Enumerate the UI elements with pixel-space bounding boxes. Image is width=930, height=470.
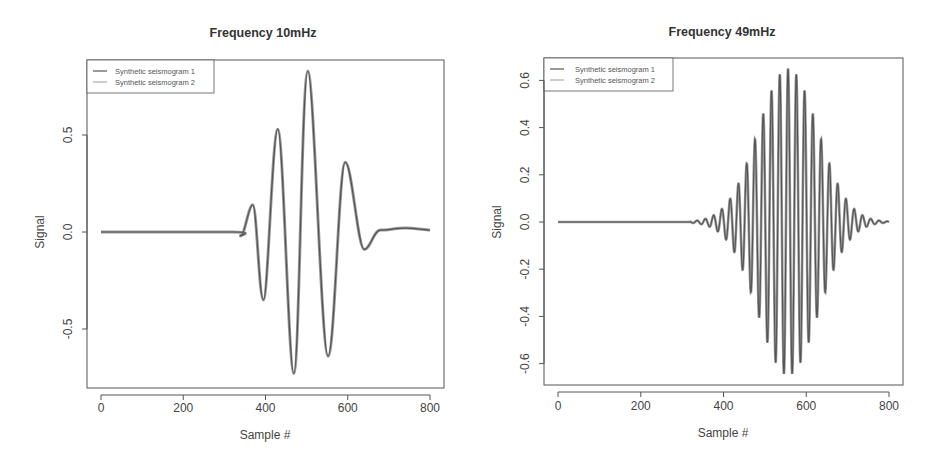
y-tick-label: 0.0 [61, 223, 75, 240]
x-tick-label: 400 [713, 399, 733, 413]
x-axis-label: Sample # [240, 428, 291, 442]
plot-title: Frequency 49mHz [669, 25, 776, 39]
y-tick-label: -0.6 [518, 353, 532, 374]
legend-box [87, 60, 214, 93]
legend: Synthetic seismogram 1 Synthetic seismog… [87, 60, 214, 93]
figure: Frequency 10mHz Synthetic seismogram 1 S… [0, 0, 930, 470]
x-tick-label: 200 [173, 401, 193, 415]
legend-entry-1: Synthetic seismogram 1 [115, 67, 195, 76]
y-tick-label: -0.5 [61, 318, 75, 339]
x-axis-label: Sample # [698, 426, 749, 440]
seismogram-1-line [101, 71, 430, 374]
legend-entry-2: Synthetic seismogram 2 [115, 78, 195, 87]
signal-curves [558, 69, 889, 374]
plot-title: Frequency 10mHz [210, 26, 317, 40]
x-tick-label: 600 [796, 399, 816, 413]
seismogram-2-line [101, 71, 430, 374]
x-tick-label: 0 [98, 401, 105, 415]
x-axis: 0200400600800 [555, 392, 900, 413]
signal-curves [101, 71, 430, 374]
y-tick-label: -0.2 [518, 259, 532, 280]
plot-49mhz: Frequency 49mHz Synthetic seismogram 1 S… [490, 25, 903, 440]
x-axis: 0200400600800 [98, 395, 441, 415]
y-tick-label: 0.6 [518, 72, 532, 89]
y-axis: -0.6-0.4-0.20.00.20.40.6 [518, 72, 544, 374]
x-tick-label: 400 [255, 401, 275, 415]
y-axis: -0.50.00.5 [61, 126, 87, 339]
x-tick-label: 0 [555, 399, 562, 413]
y-tick-label: -0.4 [518, 306, 532, 327]
y-tick-label: 0.5 [61, 126, 75, 143]
x-tick-label: 800 [420, 401, 440, 415]
y-tick-label: 0.0 [518, 213, 532, 230]
y-tick-label: 0.2 [518, 166, 532, 183]
legend-entry-1: Synthetic seismogram 1 [575, 65, 655, 74]
y-axis-label: Signal [33, 215, 47, 248]
legend-box [544, 58, 673, 91]
legend-entry-2: Synthetic seismogram 2 [575, 76, 655, 85]
legend: Synthetic seismogram 1 Synthetic seismog… [544, 58, 673, 91]
x-tick-label: 600 [338, 401, 358, 415]
plot-frame [87, 60, 444, 388]
y-axis-label: Signal [490, 205, 504, 238]
x-tick-label: 200 [631, 399, 651, 413]
plot-10mhz: Frequency 10mHz Synthetic seismogram 1 S… [33, 26, 444, 442]
y-tick-label: 0.4 [518, 119, 532, 136]
x-tick-label: 800 [879, 399, 899, 413]
